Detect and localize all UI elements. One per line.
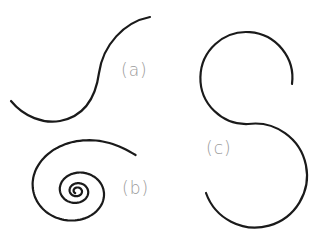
curve-c-double-arc xyxy=(200,32,307,228)
figure-canvas xyxy=(0,0,315,242)
label-a: (a) xyxy=(121,60,148,80)
label-b: (b) xyxy=(122,178,149,198)
curve-b-spiral xyxy=(33,140,136,220)
label-c: (c) xyxy=(206,138,232,158)
